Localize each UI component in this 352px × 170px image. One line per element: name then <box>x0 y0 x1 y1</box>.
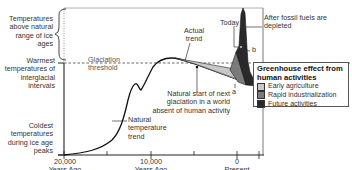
label-point-a: a <box>232 88 236 96</box>
label-today: Today <box>220 19 239 27</box>
label-point-b: b <box>252 46 256 54</box>
x-tick-20000: 20,000 Years Ago <box>46 158 84 170</box>
legend: Greenhouse effect from human activities … <box>253 62 349 107</box>
x-tick-10000: 10,000 Years Ago <box>132 158 170 170</box>
legend-item-future-activities: Future activities <box>257 100 345 109</box>
label-natural-temperature-trend: Natural temperature trend <box>128 116 168 141</box>
swatch-early-agriculture <box>257 83 265 91</box>
label-natural-start-glaciation: Natural start of next glaciation in a wo… <box>148 90 230 115</box>
swatch-future-activities <box>257 100 265 108</box>
legend-title: Greenhouse effect from human activities <box>257 65 345 82</box>
label-coldest-ice-age: Coldest temperatures during ice age peak… <box>2 122 53 156</box>
label-after-fossil-fuels: After fossil fuels are depleted <box>264 14 344 31</box>
label-glaciation-threshold: Glaciation threshold <box>88 56 134 73</box>
x-tick-present: 0 Present <box>220 158 254 170</box>
label-warmest-interglacial: Warmest temperatures of interglacial int… <box>2 57 55 91</box>
brace-icon <box>55 9 66 60</box>
swatch-rapid-industrialization <box>257 91 265 99</box>
label-actual-trend: Actual trend <box>178 27 210 44</box>
label-above-natural-range: Temperatures above natural range of ice … <box>2 15 53 49</box>
legend-item-early-agriculture: Early agriculture <box>257 82 345 91</box>
legend-item-rapid-industrialization: Rapid industrialization <box>257 91 345 100</box>
